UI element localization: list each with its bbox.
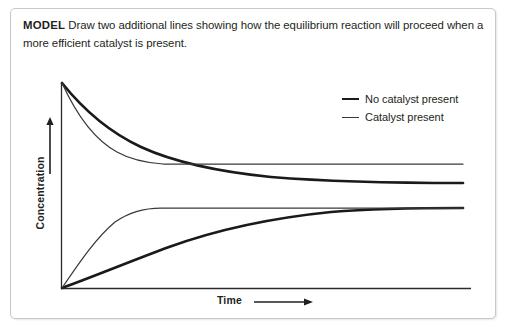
- legend-line-swatch-thick: [342, 98, 359, 100]
- equilibrium-chart: Concentration Time No catalyst present C…: [11, 9, 496, 319]
- legend-line-swatch-thin: [342, 117, 359, 118]
- legend-item-no-catalyst: No catalyst present: [342, 91, 492, 107]
- legend-item-catalyst: Catalyst present: [342, 109, 492, 125]
- legend-label-catalyst: Catalyst present: [365, 111, 444, 123]
- curve-product-with-catalyst: [62, 208, 463, 288]
- y-axis-label: Concentration: [34, 138, 46, 248]
- right-arrow-icon: [254, 296, 314, 308]
- curve-product-no-catalyst: [62, 208, 463, 288]
- model-exercise-panel: MODEL Draw two additional lines showing …: [10, 8, 496, 319]
- chart-canvas: [11, 9, 496, 319]
- chart-legend: No catalyst present Catalyst present: [342, 91, 492, 127]
- x-axis-label: Time: [217, 294, 242, 306]
- legend-label-no-catalyst: No catalyst present: [365, 93, 458, 105]
